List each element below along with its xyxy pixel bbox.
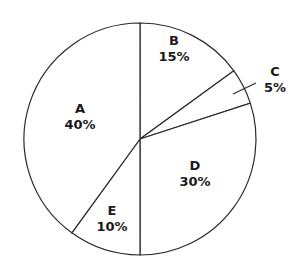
slice-percent-e: 10% bbox=[96, 219, 127, 234]
slice-label-e: E bbox=[108, 203, 117, 218]
pie-slices bbox=[24, 23, 256, 255]
slice-percent-a: 40% bbox=[64, 117, 95, 132]
slice-label-b: B bbox=[169, 33, 179, 48]
slice-label-d: D bbox=[190, 158, 201, 173]
slice-percent-d: 30% bbox=[179, 174, 210, 189]
pie-chart: B15%C5%D30%E10%A40% bbox=[0, 0, 300, 267]
slice-percent-b: 15% bbox=[158, 49, 189, 64]
slice-label-a: A bbox=[75, 101, 85, 116]
slice-label-c: C bbox=[270, 64, 280, 79]
slice-percent-c: 5% bbox=[264, 80, 286, 95]
